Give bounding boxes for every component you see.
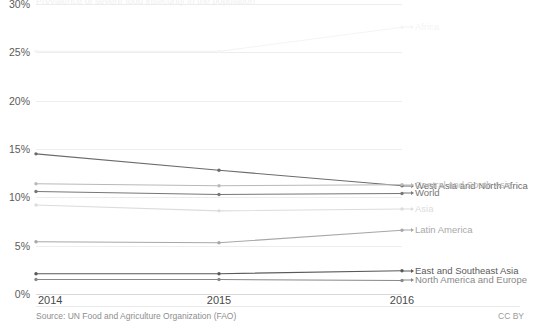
data-point <box>217 184 220 187</box>
chart-container: Prevalence of severe food insecurity in … <box>0 0 538 332</box>
label-connector <box>402 270 411 271</box>
label-connector <box>402 208 411 209</box>
data-point <box>217 50 220 53</box>
data-point <box>34 240 37 243</box>
series-label-north-america-and-europe[interactable]: North America and Europe <box>415 276 527 286</box>
data-point <box>34 203 37 206</box>
source-note: Source: UN Food and Agriculture Organiza… <box>36 311 236 321</box>
y-tick-label: 15% <box>0 144 30 155</box>
data-point <box>217 169 220 172</box>
label-connector <box>402 280 411 281</box>
data-point <box>34 182 37 185</box>
series-line <box>36 230 402 243</box>
label-arrow-icon <box>411 278 414 282</box>
series-label-asia[interactable]: Asia <box>415 204 433 214</box>
data-point <box>34 190 37 193</box>
series-label-world[interactable]: World <box>415 189 440 199</box>
data-point <box>217 241 220 244</box>
data-point <box>34 152 37 155</box>
x-tick-label: 2016 <box>390 294 414 306</box>
y-tick-label: 10% <box>0 192 30 203</box>
plot-area <box>36 4 402 294</box>
label-connector <box>402 184 411 185</box>
y-tick-label: 20% <box>0 95 30 106</box>
label-arrow-icon <box>411 207 414 211</box>
label-arrow-icon <box>411 25 414 29</box>
y-tick-label: 5% <box>0 240 30 251</box>
y-tick-label: 25% <box>0 47 30 58</box>
y-tick-label: 30% <box>0 0 30 9</box>
x-tick-label: 2014 <box>38 294 62 306</box>
data-point <box>34 272 37 275</box>
data-point <box>217 209 220 212</box>
y-tick-label: 0% <box>0 289 30 300</box>
series-label-africa[interactable]: Africa <box>415 22 439 32</box>
data-point <box>34 278 37 281</box>
label-arrow-icon <box>411 191 414 195</box>
label-arrow-icon <box>411 228 414 232</box>
label-connector <box>402 193 411 194</box>
label-connector <box>402 27 411 28</box>
series-lines <box>36 4 402 294</box>
footer-divider <box>36 306 520 307</box>
data-point <box>34 50 37 53</box>
license-note: CC BY <box>498 311 524 321</box>
label-arrow-icon <box>411 183 414 187</box>
label-connector <box>402 185 411 186</box>
series-line <box>36 27 402 51</box>
label-arrow-icon <box>411 269 414 273</box>
series-label-latin-america[interactable]: Latin America <box>415 225 473 235</box>
x-tick-label: 2015 <box>207 294 231 306</box>
data-point <box>217 193 220 196</box>
label-connector <box>402 230 411 231</box>
data-point <box>217 272 220 275</box>
data-point <box>217 278 220 281</box>
